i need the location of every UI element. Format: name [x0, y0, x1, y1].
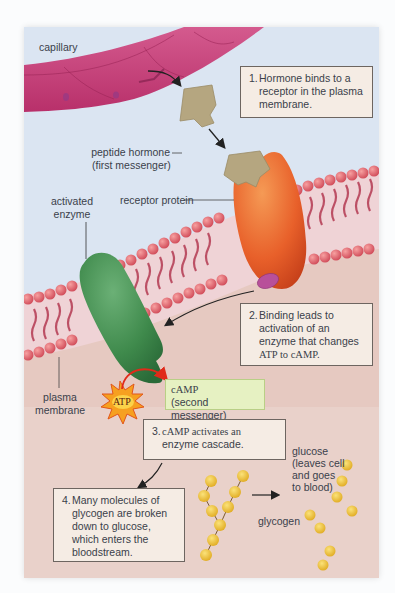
- glucose-icon: [315, 523, 326, 534]
- peptide-hormone-label: peptide hormone (first messenger): [84, 146, 170, 171]
- glucose-label: glucose (leaves cell and goes to blood): [292, 445, 345, 493]
- diagram-panel: capillary peptide hormone (first messeng…: [24, 27, 379, 578]
- step-4-box: 4. Many molecules of glycogen are broken…: [53, 488, 185, 562]
- camp-second-messenger-box: cAMP (second messenger): [165, 379, 265, 410]
- step-3-box: 3. cAMP activates an enzyme cascade.: [143, 419, 286, 460]
- glucose-icon: [332, 492, 343, 503]
- atp-label: ATP: [113, 396, 131, 407]
- glycogen-label: glycogen: [258, 515, 300, 528]
- step-2-box: 2. Binding leads to activation of an enz…: [240, 303, 373, 366]
- step-1-box: 1. Hormone binds to a receptor in the pl…: [240, 66, 373, 118]
- activated-enzyme-label: activated enzyme: [39, 195, 105, 220]
- capillary-label: capillary: [39, 41, 78, 54]
- plasma-membrane-label: plasma membrane: [28, 391, 92, 416]
- glucose-icon: [347, 506, 358, 517]
- glucose-icon: [305, 510, 316, 521]
- glucose-icon: [325, 546, 336, 557]
- glucose-icon: [318, 560, 329, 571]
- receptor-protein-label: receptor protein: [120, 194, 194, 207]
